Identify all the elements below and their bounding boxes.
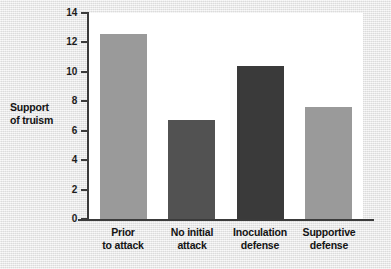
bars-layer	[89, 13, 363, 219]
x-axis-category-label-line: Supportive	[284, 226, 374, 239]
y-axis-tick-label: 10	[37, 67, 77, 77]
bar-chart-figure: 02468101214 Supportof truism Priorto att…	[0, 0, 391, 269]
y-axis-title: Supportof truism	[10, 101, 82, 127]
bar-2	[168, 120, 215, 219]
y-axis-tick	[81, 71, 88, 73]
y-axis-tick-label: 14	[37, 8, 77, 18]
y-axis-title-line: of truism	[10, 114, 82, 127]
x-axis-category-label-4: Supportivedefense	[284, 226, 374, 252]
y-axis-tick	[81, 218, 88, 220]
y-axis-tick-label: 2	[37, 185, 77, 195]
y-axis-tick	[81, 130, 88, 132]
y-axis-tick	[81, 189, 88, 191]
bar-1	[100, 34, 147, 219]
y-axis-tick-label: 6	[37, 126, 77, 136]
y-axis-tick	[81, 100, 88, 102]
bar-4	[305, 107, 352, 219]
y-axis-title-line: Support	[10, 101, 82, 114]
bar-3	[237, 66, 284, 219]
y-axis-tick-label: 4	[37, 155, 77, 165]
y-axis-tick-label: 0	[37, 214, 77, 224]
y-axis-tick-label: 12	[37, 37, 77, 47]
x-axis-line	[78, 219, 374, 221]
y-axis-tick	[81, 159, 88, 161]
y-axis-tick	[81, 12, 88, 14]
y-axis-tick	[81, 41, 88, 43]
x-axis-category-label-line: defense	[284, 239, 374, 252]
